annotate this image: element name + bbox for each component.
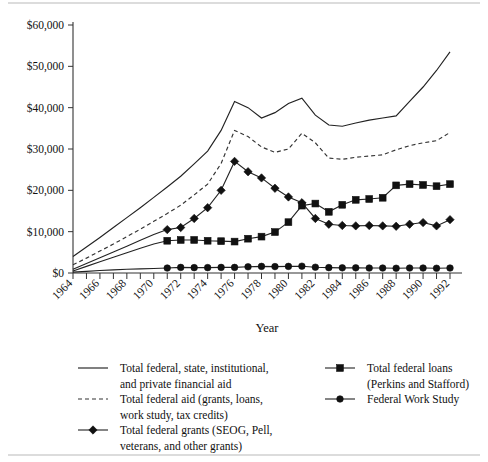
data-point-marker bbox=[204, 264, 211, 271]
x-axis-title: Year bbox=[255, 321, 279, 335]
data-point-marker bbox=[299, 263, 306, 270]
data-point-marker bbox=[285, 219, 292, 226]
data-point-marker bbox=[325, 208, 332, 215]
y-tick-label: $0 bbox=[53, 267, 65, 279]
data-point-marker bbox=[258, 263, 265, 270]
legend-label-line2: work study, tax credits) bbox=[120, 409, 228, 422]
legend-label-line1: Federal Work Study bbox=[367, 393, 459, 406]
y-tick-label: $30,000 bbox=[27, 143, 65, 156]
legend-label-line2: veterans, and other grants) bbox=[120, 440, 242, 453]
data-point-marker bbox=[164, 237, 171, 244]
data-point-marker bbox=[312, 264, 319, 271]
data-point-marker bbox=[191, 237, 198, 244]
data-point-marker bbox=[339, 201, 346, 208]
data-point-marker bbox=[366, 265, 373, 272]
data-point-marker bbox=[433, 265, 440, 272]
data-point-marker bbox=[447, 265, 454, 272]
legend-label-line2: (Perkins and Stafford) bbox=[367, 378, 469, 391]
data-point-marker bbox=[245, 235, 252, 242]
data-point-marker bbox=[177, 237, 184, 244]
data-point-marker bbox=[177, 264, 184, 271]
data-point-marker bbox=[218, 238, 225, 245]
data-point-marker bbox=[447, 181, 454, 188]
data-point-marker bbox=[298, 202, 305, 209]
data-point-marker bbox=[204, 237, 211, 244]
data-point-marker bbox=[337, 396, 344, 403]
data-point-marker bbox=[164, 265, 171, 272]
data-point-marker bbox=[218, 264, 225, 271]
data-point-marker bbox=[406, 181, 413, 188]
data-point-marker bbox=[258, 233, 265, 240]
data-point-marker bbox=[272, 229, 279, 236]
legend-label-line1: Total federal loans bbox=[367, 362, 453, 374]
data-point-marker bbox=[366, 196, 373, 203]
data-point-marker bbox=[420, 182, 427, 189]
data-point-marker bbox=[272, 263, 279, 270]
y-tick-label: $60,000 bbox=[27, 19, 65, 32]
data-point-marker bbox=[191, 264, 198, 271]
data-point-marker bbox=[312, 200, 319, 207]
legend-label-line1: Total federal grants (SEOG, Pell, bbox=[120, 424, 273, 437]
data-point-marker bbox=[433, 183, 440, 190]
data-point-marker bbox=[352, 196, 359, 203]
data-point-marker bbox=[406, 265, 413, 272]
data-point-marker bbox=[245, 264, 252, 271]
data-point-marker bbox=[231, 264, 238, 271]
data-point-marker bbox=[285, 263, 292, 270]
data-point-marker bbox=[352, 265, 359, 272]
data-point-marker bbox=[231, 238, 238, 245]
y-tick-label: $50,000 bbox=[27, 60, 65, 73]
data-point-marker bbox=[337, 365, 344, 372]
legend-label-line2: and private financial aid bbox=[120, 378, 232, 391]
y-tick-label: $20,000 bbox=[27, 184, 65, 197]
y-tick-label: $40,000 bbox=[27, 102, 65, 115]
financial-aid-line-chart: $0$10,000$20,000$30,000$40,000$50,000$60… bbox=[0, 0, 488, 462]
legend-label-line1: Total federal aid (grants, loans, bbox=[120, 393, 263, 406]
data-point-marker bbox=[393, 265, 400, 272]
data-point-marker bbox=[339, 265, 346, 272]
data-point-marker bbox=[379, 194, 386, 201]
data-point-marker bbox=[379, 265, 386, 272]
data-point-marker bbox=[393, 182, 400, 189]
data-point-marker bbox=[326, 264, 333, 271]
legend-label-line1: Total federal, state, institutional, bbox=[120, 362, 269, 375]
data-point-marker bbox=[420, 265, 427, 272]
y-tick-label: $10,000 bbox=[27, 226, 65, 239]
